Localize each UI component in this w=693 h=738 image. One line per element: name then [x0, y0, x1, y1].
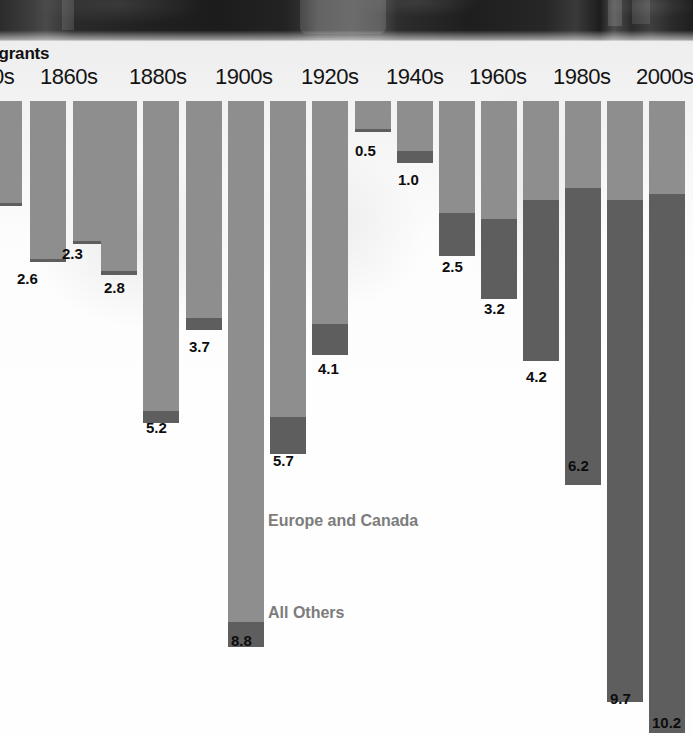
bar-segment-europe-and-canada [649, 101, 685, 194]
bar-value-label-1950s: 2.5 [442, 258, 463, 275]
suitcase-highlight-1 [62, 0, 74, 30]
bar-segment-europe-and-canada [607, 101, 643, 200]
bar-value-label-1870s: 2.8 [104, 279, 125, 296]
bar-segment-all-others [397, 151, 433, 163]
bar-segment-europe-and-canada [101, 101, 137, 271]
bar-value-label-1910s: 5.7 [273, 452, 294, 469]
bar-segment-europe-and-canada [481, 101, 517, 219]
bar-1890s[interactable] [186, 101, 222, 330]
bar-value-label-1990s: 9.7 [610, 690, 631, 707]
bar-segment-all-others [101, 271, 137, 275]
bar-1930s[interactable] [355, 101, 391, 132]
bar-segment-europe-and-canada [228, 101, 264, 622]
bar-1980s[interactable] [565, 101, 601, 485]
bar-1870s[interactable] [101, 101, 137, 275]
bar-segment-all-others [565, 188, 601, 486]
bar-value-label-1890s: 3.7 [189, 338, 210, 355]
bar-segment-all-others [312, 324, 348, 355]
decade-label-1860s: 1860s [40, 64, 97, 90]
bar-1940s[interactable] [397, 101, 433, 163]
bar-1960s[interactable] [481, 101, 517, 299]
bar-segment-europe-and-canada [523, 101, 559, 200]
bar-1850s[interactable] [30, 101, 66, 262]
bar-value-label-1920s: 4.1 [318, 360, 339, 377]
suitcase-highlight-2 [300, 0, 386, 34]
decade-label-0s: 0s [0, 64, 14, 90]
bar-value-label-1860s: 2.3 [62, 245, 83, 262]
decade-label-1880s: 1880s [129, 64, 186, 90]
decade-label-2000s: 2000s [636, 64, 693, 90]
decade-label-1980s: 1980s [553, 64, 610, 90]
bar-segment-all-others [481, 219, 517, 300]
bar-segment-all-others [270, 417, 306, 454]
suitcase-highlight-4 [632, 0, 650, 24]
bar-segment-all-others [0, 203, 22, 206]
series-label-europe-and-canada: Europe and Canada [268, 512, 418, 530]
bar-segment-all-others [607, 200, 643, 702]
bar-value-label-1960s: 3.2 [484, 300, 505, 317]
bar-1840s[interactable] [0, 101, 22, 206]
bar-segment-europe-and-canada [397, 101, 433, 151]
bar-segment-europe-and-canada [565, 101, 601, 188]
bar-value-label-1970s: 4.2 [526, 368, 547, 385]
bar-segment-all-others [439, 213, 475, 256]
series-label-all-others: All Others [268, 604, 344, 622]
bar-value-label-1850s: 2.6 [17, 270, 38, 287]
suitcase-highlight-3 [608, 0, 622, 26]
bar-1970s[interactable] [523, 101, 559, 361]
bar-1900s[interactable] [228, 101, 264, 647]
decade-label-1960s: 1960s [469, 64, 526, 90]
bar-segment-europe-and-canada [312, 101, 348, 324]
bar-value-label-1880s: 5.2 [146, 419, 167, 436]
bar-1880s[interactable] [143, 101, 179, 423]
bar-segment-all-others [186, 318, 222, 330]
decade-axis: 0s1860s1880s1900s1920s1940s1960s1980s200… [0, 64, 693, 94]
bar-segment-europe-and-canada [439, 101, 475, 213]
bar-segment-europe-and-canada [355, 101, 391, 129]
bar-value-label-1980s: 6.2 [568, 457, 589, 474]
bar-1950s[interactable] [439, 101, 475, 256]
bar-value-label-1930s: 0.5 [355, 142, 376, 159]
bar-segment-europe-and-canada [30, 101, 66, 259]
bar-value-label-2000s: 10.2 [652, 714, 681, 731]
chart-page: igrants 0s1860s1880s1900s1920s1940s1960s… [0, 0, 693, 738]
bar-segment-europe-and-canada [270, 101, 306, 417]
decade-label-1900s: 1900s [215, 64, 272, 90]
decade-label-1940s: 1940s [386, 64, 443, 90]
bar-1910s[interactable] [270, 101, 306, 454]
bar-segment-europe-and-canada [0, 101, 22, 203]
bar-segment-europe-and-canada [186, 101, 222, 318]
bars-plot-area: 2.62.32.85.23.78.85.74.10.51.02.53.24.26… [0, 101, 693, 701]
bar-1990s[interactable] [607, 101, 643, 702]
page-title: igrants [0, 44, 49, 64]
bar-value-label-1900s: 8.8 [231, 632, 252, 649]
bar-segment-all-others [355, 129, 391, 132]
bar-1920s[interactable] [312, 101, 348, 355]
bar-segment-all-others [30, 259, 66, 262]
bar-segment-all-others [523, 200, 559, 361]
bar-segment-all-others [649, 194, 685, 733]
bar-segment-europe-and-canada [143, 101, 179, 411]
bar-2000s[interactable] [649, 101, 685, 733]
bar-value-label-1940s: 1.0 [398, 171, 419, 188]
decade-label-1920s: 1920s [301, 64, 358, 90]
header-photo-luggage [0, 0, 693, 42]
